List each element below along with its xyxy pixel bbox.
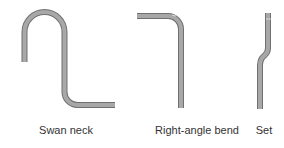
set-shape — [260, 13, 271, 109]
set-label: Set — [256, 124, 273, 136]
swan-neck-label: Swan neck — [39, 124, 93, 136]
swan-neck-shape — [25, 12, 116, 105]
right-angle-bend-label: Right-angle bend — [155, 124, 239, 136]
right-angle-bend-shape — [137, 15, 181, 108]
